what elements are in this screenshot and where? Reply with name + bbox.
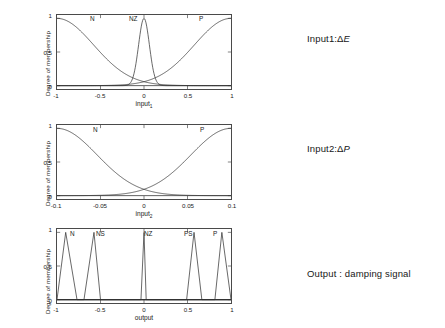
x-axis-label-output-text: output bbox=[135, 314, 153, 321]
chart-input2: Degree of membership 1 0.5 0 N P -0.1 -0… bbox=[0, 110, 260, 220]
side-label-input1-var: E bbox=[344, 33, 351, 44]
y-tick-input1-0: 0 bbox=[36, 83, 52, 90]
curve-label-input2-n: N bbox=[93, 126, 98, 133]
chart-input1: Degree of membership 1 0.5 0 N NZ P -1 -… bbox=[0, 0, 260, 110]
series-N bbox=[57, 18, 231, 85]
x-tick-input2-4: 0.1 bbox=[220, 202, 244, 209]
x-tick-output-0: -1 bbox=[46, 306, 66, 313]
x-tick-input1-0: -1 bbox=[46, 92, 66, 99]
curve-label-input2-p: P bbox=[200, 126, 204, 133]
y-tick-output-0: 0 bbox=[36, 297, 52, 304]
y-tick-input2-0: 0 bbox=[36, 193, 52, 200]
series-P bbox=[57, 128, 231, 195]
y-axis-label-output: Degree of membership bbox=[44, 249, 51, 314]
curve-label-input1-p: P bbox=[199, 15, 203, 22]
side-label-output-prefix: Output : damping signal bbox=[307, 268, 411, 279]
x-axis-label-output: output bbox=[114, 314, 174, 323]
series-NZ bbox=[57, 232, 231, 299]
x-axis-label-input1-sub: 1 bbox=[150, 104, 153, 109]
curve-label-input1-nz: NZ bbox=[129, 15, 138, 22]
side-label-input1: Input1:ΔE bbox=[307, 33, 350, 44]
x-tick-input1-4: 1 bbox=[222, 92, 242, 99]
x-tick-input1-2: 0 bbox=[134, 92, 154, 99]
series-NZ bbox=[57, 18, 231, 85]
plot-area-input1 bbox=[56, 14, 232, 90]
x-tick-input1-1: -0.5 bbox=[90, 92, 110, 99]
x-tick-output-2: 0 bbox=[134, 306, 154, 313]
x-tick-input2-3: 0.05 bbox=[176, 202, 200, 209]
series-N bbox=[57, 128, 231, 195]
plot-area-input2 bbox=[56, 124, 232, 200]
figure-root: Degree of membership 1 0.5 0 N NZ P -1 -… bbox=[0, 0, 445, 328]
x-tick-output-3: 0.5 bbox=[178, 306, 198, 313]
curve-label-output-n: N bbox=[70, 230, 75, 237]
curve-label-output-p: P bbox=[213, 230, 217, 237]
x-tick-input2-1: -0.05 bbox=[88, 202, 112, 209]
x-axis-label-input1: input1 bbox=[114, 100, 174, 109]
curve-label-input1-n: N bbox=[90, 15, 95, 22]
y-tick-input2-1: 1 bbox=[36, 122, 52, 129]
chart-output: Degree of membership 1 0.5 0 N NS NZ PS … bbox=[0, 218, 260, 328]
side-label-input2: Input2:ΔP bbox=[307, 143, 350, 154]
curve-label-output-ns: NS bbox=[96, 230, 105, 237]
side-label-output: Output : damping signal bbox=[307, 268, 411, 279]
y-tick-input2-05: 0.5 bbox=[36, 159, 52, 166]
curve-label-output-ps: PS bbox=[184, 230, 193, 237]
plot-svg-input1 bbox=[57, 15, 231, 89]
x-tick-input2-2: 0 bbox=[132, 202, 156, 209]
x-tick-input2-0: -0.1 bbox=[44, 202, 68, 209]
y-tick-output-05: 0.5 bbox=[36, 263, 52, 270]
side-label-input2-var: P bbox=[344, 143, 351, 154]
side-label-input1-prefix: Input1: bbox=[307, 33, 337, 44]
x-tick-output-1: -0.5 bbox=[90, 306, 110, 313]
x-tick-output-4: 1 bbox=[222, 306, 242, 313]
side-label-input2-prefix: Input2: bbox=[307, 143, 337, 154]
y-tick-output-1: 1 bbox=[36, 226, 52, 233]
plot-area-output bbox=[56, 228, 232, 304]
x-tick-input1-3: 0.5 bbox=[178, 92, 198, 99]
x-axis-label-input2-text: input bbox=[136, 210, 150, 217]
plot-svg-output bbox=[57, 229, 231, 303]
x-axis-label-input1-text: input bbox=[136, 100, 150, 107]
plot-svg-input2 bbox=[57, 125, 231, 199]
y-tick-input1-1: 1 bbox=[36, 12, 52, 19]
y-tick-input1-05: 0.5 bbox=[36, 49, 52, 56]
curve-label-output-nz: NZ bbox=[144, 230, 153, 237]
series-P bbox=[57, 18, 231, 85]
